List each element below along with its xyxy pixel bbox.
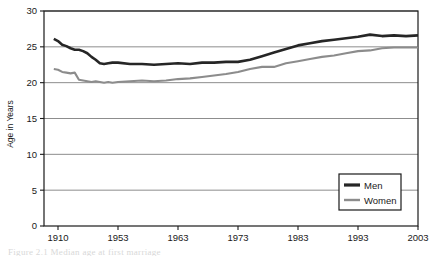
y-tick-label-10: 10 [26,149,37,160]
x-tick-label-1963: 1963 [167,232,188,243]
y-axis-title: Age in Years [5,100,15,148]
y-tick-label-30: 30 [26,5,37,16]
x-tick-label-1983: 1983 [287,232,308,243]
y-axis: 051015202530 [26,5,44,231]
x-tick-label-1973: 1973 [227,232,248,243]
y-tick-label-5: 5 [32,185,37,196]
x-tick-label-1910: 1910 [47,232,68,243]
x-tick-label-1993: 1993 [347,232,368,243]
chart-figure: 051015202530 191019531963197319831993200… [0,0,434,256]
x-axis: 1910195319631973198319932003 [47,226,428,243]
chart-legend[interactable]: Men Women [339,174,401,210]
y-tick-label-25: 25 [26,41,37,52]
legend-label-men: Men [364,180,382,191]
line-chart: 051015202530 191019531963197319831993200… [0,0,434,256]
y-tick-label-0: 0 [32,220,37,231]
legend-label-women: Women [364,195,397,206]
x-tick-label-1953: 1953 [107,232,128,243]
y-tick-label-20: 20 [26,77,37,88]
x-tick-label-2003: 2003 [407,232,428,243]
figure-caption: Figure 2.1 Median age at first marriage [8,247,161,256]
y-tick-label-15: 15 [26,113,37,124]
